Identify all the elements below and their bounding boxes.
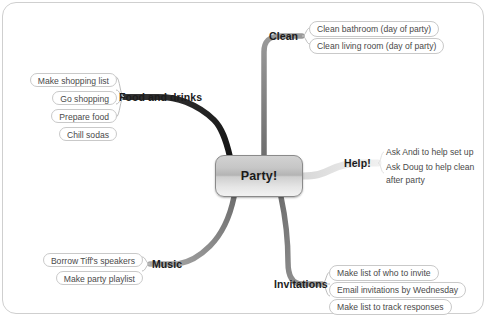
central-node-label: Party! (241, 169, 278, 183)
leaf-item[interactable]: Ask Doug to help clean after party (383, 160, 488, 187)
branch-title-help[interactable]: Help! (344, 157, 371, 169)
leaf-group-clean: Clean bathroom (day of party) Clean livi… (309, 21, 444, 55)
leaf-item[interactable]: Clean living room (day of party) (309, 38, 444, 54)
branch-title-music[interactable]: Music (152, 258, 182, 270)
branch-title-food-and-drinks[interactable]: Food and drinks (119, 91, 202, 103)
leaf-group-invitations: Make list of who to invite Email invitat… (329, 265, 466, 316)
leaf-item[interactable]: Make list to track responses (329, 299, 452, 315)
leaf-item[interactable]: Ask Andi to help set up (383, 145, 480, 159)
branch-line-music (150, 197, 234, 264)
branch-line-food-and-drinks (124, 97, 230, 157)
branch-line-invitations (281, 197, 322, 284)
leaf-item[interactable]: Go shopping (52, 91, 117, 105)
central-node[interactable]: Party! (215, 155, 303, 197)
branch-title-clean[interactable]: Clean (269, 30, 298, 42)
branch-title-invitations[interactable]: Invitations (274, 278, 328, 290)
leaf-item[interactable]: Email invitations by Wednesday (329, 282, 466, 298)
leaf-group-music: Borrow Tiff's speakers Make party playli… (0, 250, 143, 286)
leaf-item[interactable]: Make party playlist (56, 271, 143, 285)
mindmap-canvas: Party! Clean Food and drinks Help! Music… (0, 0, 488, 318)
leaf-group-help: Ask Andi to help set up Ask Doug to help… (383, 145, 488, 188)
leaf-group-food-and-drinks: Make shopping list Go shopping Prepare f… (0, 70, 117, 142)
leaf-item[interactable]: Prepare food (51, 109, 117, 123)
leaf-connector-music (142, 257, 150, 271)
branch-line-clean (264, 36, 302, 155)
leaf-item[interactable]: Borrow Tiff's speakers (43, 253, 143, 267)
leaf-item[interactable]: Make list of who to invite (329, 265, 439, 281)
leaf-item[interactable]: Make shopping list (30, 73, 117, 87)
leaf-item[interactable]: Chill sodas (59, 127, 117, 141)
leaf-item[interactable]: Clean bathroom (day of party) (309, 21, 439, 37)
